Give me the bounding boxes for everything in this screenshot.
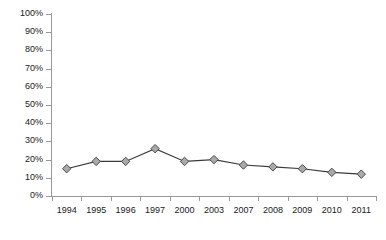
data-point-marker (210, 155, 218, 163)
data-point-marker (239, 161, 247, 169)
series-plot (0, 0, 386, 240)
data-point-marker (328, 168, 336, 176)
data-point-marker (63, 165, 71, 173)
data-point-marker (121, 157, 129, 165)
data-point-marker (180, 157, 188, 165)
data-point-marker (357, 170, 365, 178)
data-point-marker (269, 163, 277, 171)
data-point-marker (151, 144, 159, 152)
line-chart: 0%10%20%30%40%50%60%70%80%90%100% 199419… (0, 0, 386, 240)
data-point-marker (298, 165, 306, 173)
data-point-marker (92, 157, 100, 165)
